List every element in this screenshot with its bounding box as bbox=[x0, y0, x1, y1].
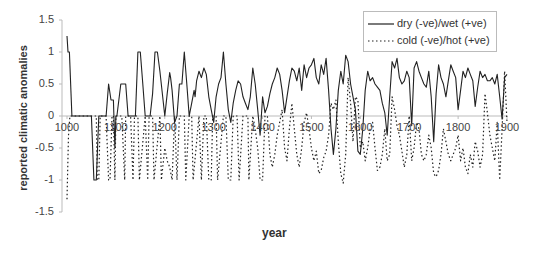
climate-anomalies-chart: reported climatic anomalies year 1.510.5… bbox=[0, 0, 538, 254]
x-tick-label: 1600 bbox=[340, 121, 380, 133]
legend-item-dry-wet: dry (-ve)/wet (+ve) bbox=[368, 17, 487, 31]
y-tick-label: 0 bbox=[24, 109, 54, 121]
series-cold-hot-line bbox=[67, 71, 507, 199]
x-tick-label: 1900 bbox=[487, 121, 527, 133]
dotted-line-icon bbox=[368, 38, 394, 44]
legend-label: cold (-ve)/hot (+ve) bbox=[397, 34, 490, 46]
legend-label: dry (-ve)/wet (+ve) bbox=[397, 17, 487, 29]
x-tick-label: 1400 bbox=[243, 121, 283, 133]
x-axis-label: year bbox=[262, 226, 287, 240]
solid-line-icon bbox=[368, 21, 394, 27]
x-tick-label: 1800 bbox=[438, 121, 478, 133]
x-tick-label: 1700 bbox=[389, 121, 429, 133]
y-tick-label: -1.5 bbox=[24, 205, 54, 217]
x-tick-label: 1500 bbox=[291, 121, 331, 133]
x-tick-label: 1100 bbox=[96, 121, 136, 133]
x-tick-label: 1200 bbox=[145, 121, 185, 133]
legend-item-cold-hot: cold (-ve)/hot (+ve) bbox=[368, 34, 490, 48]
y-tick-label: 1 bbox=[24, 45, 54, 57]
x-tick-label: 1300 bbox=[194, 121, 234, 133]
x-tick-label: 1000 bbox=[47, 121, 87, 133]
y-tick-label: -1 bbox=[24, 173, 54, 185]
legend: dry (-ve)/wet (+ve) cold (-ve)/hot (+ve) bbox=[363, 11, 497, 52]
y-tick-label: -0.5 bbox=[24, 141, 54, 153]
y-tick-label: 0.5 bbox=[24, 77, 54, 89]
y-tick-label: 1.5 bbox=[24, 13, 54, 25]
